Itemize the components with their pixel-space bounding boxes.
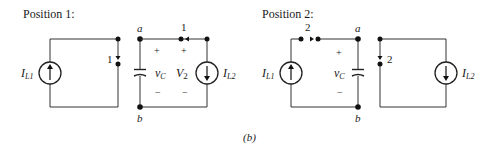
node-b-label: b [137, 112, 143, 124]
switch-terminal [116, 62, 121, 67]
vc-label: vC [334, 66, 345, 81]
switch-terminal [378, 37, 383, 42]
switch-label: 1 [107, 53, 113, 65]
switch-arrow-icon [185, 37, 189, 42]
switch-label: 1 [181, 21, 187, 33]
source-label-il1: IL1 [20, 66, 33, 81]
switch-arrow-icon [310, 37, 314, 42]
switch-arrow-icon [378, 56, 383, 60]
source-label-il1: IL1 [261, 66, 274, 81]
vc-minus: − [337, 87, 343, 98]
node-b [137, 104, 143, 110]
switch-terminal [378, 62, 383, 67]
capacitor-icon [134, 70, 146, 77]
node-b-label: b [355, 112, 361, 124]
vc-plus: + [154, 45, 160, 56]
left-loop: 2 IL1 a b + vC − [261, 21, 364, 124]
node-b [355, 104, 361, 110]
switch-terminal [205, 37, 210, 42]
source-label-il2: IL2 [222, 66, 235, 81]
switch-label: 2 [305, 21, 311, 33]
circuit-diagram: Position 1: IL1 1 a b [0, 0, 497, 147]
vc-label: vC [155, 66, 166, 81]
node-a [355, 36, 361, 42]
panel-title: Position 2: [262, 7, 314, 21]
v2-minus: − [182, 87, 188, 98]
right-loop: 2 IL2 [378, 37, 475, 108]
v2-plus: + [181, 45, 187, 56]
switch-terminal [299, 37, 304, 42]
node-a-label: a [137, 22, 143, 34]
switch-label: 2 [387, 53, 393, 65]
switch-terminal [316, 37, 321, 42]
switch-terminal [179, 37, 184, 42]
panel-position-1: Position 1: IL1 1 a b [20, 7, 235, 124]
vc-minus: − [155, 87, 161, 98]
left-loop: IL1 1 [20, 37, 121, 108]
v2-label: V2 [176, 66, 188, 81]
switch-terminal [116, 37, 121, 42]
panel-position-2: Position 2: 2 IL1 a b + vC − [261, 7, 474, 124]
vc-plus: + [336, 47, 342, 58]
figure-label: (b) [243, 131, 256, 144]
panel-title: Position 1: [23, 7, 75, 21]
right-loop: a b + vC − + V2 − 1 IL2 [134, 21, 235, 124]
capacitor-icon [352, 70, 364, 77]
node-a-label: a [355, 22, 361, 34]
source-label-il2: IL2 [461, 66, 474, 81]
switch-arrow-icon [116, 56, 121, 60]
